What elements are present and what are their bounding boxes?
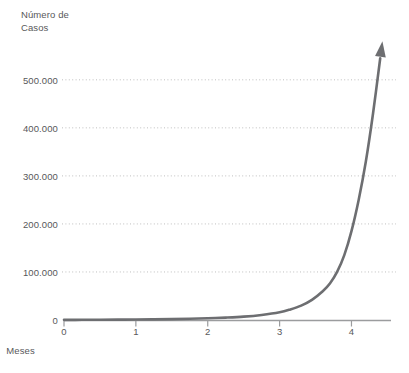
gridlines [62,80,396,272]
y-tick-label: 0 [2,315,58,326]
arrowhead-icon [375,41,386,57]
y-tick-label: 300.000 [2,170,58,181]
y-tick-label: 500.000 [2,74,58,85]
x-axis-title-text: Meses [6,345,34,356]
plot-area [0,0,409,373]
x-tick-label: 3 [265,326,295,337]
y-tick-label: 200.000 [2,218,58,229]
y-tick-label: 100.000 [2,266,58,277]
x-axis-title: Meses [0,345,409,356]
y-tick-label: 400.000 [2,122,58,133]
x-tick-label: 0 [49,326,79,337]
chart-canvas: Número de Casos 0100.000200.000300.00040… [0,0,409,373]
x-tick-label: 2 [193,326,223,337]
x-tick-label: 1 [121,326,151,337]
x-tick-label: 4 [336,326,366,337]
data-series-casos [64,58,380,320]
